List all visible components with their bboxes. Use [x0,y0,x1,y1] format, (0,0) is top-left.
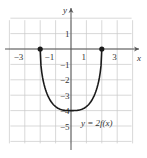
y-tick-label: −1 [60,60,70,70]
endpoint-dot [99,46,104,51]
tick-labels: xy−3−1131−1−2−3−4−5 [14,5,141,132]
x-tick-label: 1 [81,52,86,62]
curve-annotation: y = 2f(x) [80,118,113,128]
y-tick-label: −2 [60,75,70,85]
curve-equation-label: y = 2f(x) [80,118,113,128]
x-tick-label: −3 [14,52,24,62]
y-tick-label: −3 [60,91,70,101]
x-tick-label: −1 [45,52,55,62]
y-tick-label: −5 [60,122,70,132]
x-axis-label: x [136,53,141,63]
function-graph: xy−3−1131−1−2−3−4−5 y = 2f(x) [0,0,147,158]
y-axis-label: y [62,5,67,15]
y-tick-label: 1 [65,29,70,39]
x-tick-label: 3 [112,52,117,62]
endpoint-dot [38,46,43,51]
